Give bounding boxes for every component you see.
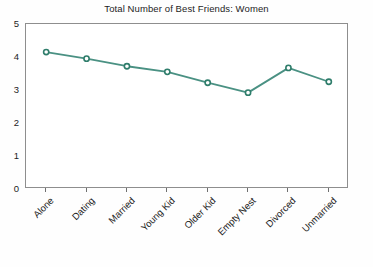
data-point-marker [165,69,170,74]
y-tick-label: 1 [14,150,19,161]
x-tick-mark [126,188,127,192]
data-point-marker [286,65,291,70]
x-tick-mark [86,188,87,192]
y-tick-label: 4 [14,51,19,62]
x-tick-mark [247,188,248,192]
x-tick-label: Empty Nest [215,195,258,238]
y-axis: 012345 [0,0,25,211]
data-point-marker [245,90,250,95]
x-tick-mark [328,188,329,192]
x-tick-mark [166,188,167,192]
x-tick-mark [45,188,46,192]
chart-figure: Total Number of Best Friends: Women 0123… [0,0,373,267]
x-tick-label: Married [106,195,137,226]
data-point-marker [205,80,210,85]
data-point-marker [44,49,49,54]
x-tick-label: Dating [69,195,96,222]
x-tick-mark [287,188,288,192]
plot-area [25,23,348,188]
x-tick-mark [207,188,208,192]
data-point-marker [124,64,129,69]
x-tick-label: Older Kid [182,195,218,231]
y-tick-label: 3 [14,84,19,95]
data-point-marker [84,56,89,61]
y-tick-label: 2 [14,117,19,128]
x-tick-label: Alone [31,195,56,220]
chart-title: Total Number of Best Friends: Women [0,3,373,14]
x-axis: AloneDatingMarriedYoung KidOlder KidEmpt… [0,188,373,267]
x-tick-label: Young Kid [139,195,177,233]
x-tick-label: Divorced [264,195,298,229]
x-tick-label: Unmarried [299,195,338,234]
y-tick-label: 5 [14,18,19,29]
line-series-svg [26,24,349,189]
data-point-marker [326,79,331,84]
